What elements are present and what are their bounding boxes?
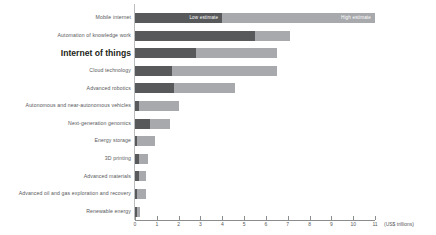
- x-tick-label: 3: [199, 222, 202, 227]
- x-tick: [288, 216, 289, 220]
- x-tick-label: 1: [155, 222, 158, 227]
- x-tick-label: 11: [372, 222, 377, 227]
- x-tick-label: 2: [177, 222, 180, 227]
- bar-segment-low-estimate: Low estimate: [135, 13, 222, 23]
- category-label: Autonomous and near-autonomous vehicles: [26, 103, 131, 108]
- bar-segment-low-estimate: [135, 101, 139, 111]
- bar-segment-high-estimate: [172, 66, 277, 76]
- x-tick-label: 6: [265, 222, 268, 227]
- x-tick: [200, 216, 201, 220]
- category-label: Mobile internet: [95, 15, 131, 20]
- bar-segment-low-estimate: [135, 119, 150, 129]
- x-tick-label: 8: [308, 222, 311, 227]
- bar-segment-low-estimate: [135, 207, 137, 217]
- bar-segment-high-estimate: [139, 101, 178, 111]
- bar-row: [135, 207, 140, 217]
- category-label: Automation of knowledge work: [58, 33, 131, 38]
- x-tick-label: 0: [134, 222, 137, 227]
- bar-segment-low-estimate: [135, 66, 172, 76]
- category-label: Energy storage: [94, 138, 131, 143]
- bar-segment-high-estimate: [196, 48, 277, 58]
- bar-chart: 01234567891011 (US$ trillions) Mobile in…: [0, 0, 436, 235]
- bar-row: [135, 154, 148, 164]
- bar-segment-high-estimate: High estimate: [222, 13, 375, 23]
- x-tick: [375, 216, 376, 220]
- bar-segment-high-estimate: [139, 171, 146, 181]
- x-tick: [135, 216, 136, 220]
- bar-row: [135, 189, 146, 199]
- category-label: Advanced robotics: [87, 86, 131, 91]
- category-label: Advanced materials: [84, 174, 131, 179]
- x-tick: [353, 216, 354, 220]
- category-label: 3D printing: [105, 156, 131, 161]
- category-label: Cloud technology: [89, 68, 131, 73]
- x-tick-label: 4: [221, 222, 224, 227]
- bar-segment-low-estimate: [135, 189, 137, 199]
- bar-segment-high-estimate: [137, 189, 146, 199]
- bar-segment-low-estimate: [135, 136, 137, 146]
- x-axis-unit-label: (US$ trillions): [384, 222, 414, 227]
- x-tick: [331, 216, 332, 220]
- legend-label-low-estimate: Low estimate: [189, 16, 218, 21]
- bar-row: [135, 101, 179, 111]
- category-label: Internet of things: [61, 49, 131, 58]
- bar-segment-high-estimate: [137, 207, 140, 217]
- bar-row: [135, 136, 155, 146]
- x-tick: [179, 216, 180, 220]
- bar-row: [135, 31, 290, 41]
- bar-row: [135, 119, 170, 129]
- category-label: Next-generation genomics: [68, 121, 131, 126]
- x-tick: [266, 216, 267, 220]
- x-axis-line: [135, 220, 375, 221]
- bar-segment-low-estimate: [135, 171, 139, 181]
- bar-segment-low-estimate: [135, 83, 174, 93]
- x-tick: [222, 216, 223, 220]
- x-tick-label: 9: [330, 222, 333, 227]
- bar-row: High estimateLow estimate: [135, 13, 375, 23]
- bar-row: [135, 171, 146, 181]
- bar-segment-high-estimate: [174, 83, 235, 93]
- x-tick: [244, 216, 245, 220]
- bar-segment-low-estimate: [135, 154, 139, 164]
- bar-segment-high-estimate: [150, 119, 170, 129]
- legend-label-high-estimate: High estimate: [341, 16, 371, 21]
- x-tick: [157, 216, 158, 220]
- bar-row: [135, 66, 277, 76]
- category-label: Advanced oil and gas exploration and rec…: [19, 191, 131, 196]
- x-tick-label: 7: [286, 222, 289, 227]
- bar-segment-low-estimate: [135, 31, 255, 41]
- x-tick-label: 5: [243, 222, 246, 227]
- x-tick-label: 10: [350, 222, 356, 227]
- bar-segment-high-estimate: [255, 31, 290, 41]
- bar-segment-low-estimate: [135, 48, 196, 58]
- bar-segment-high-estimate: [139, 154, 148, 164]
- category-label: Renewable energy: [86, 209, 131, 214]
- bar-row: [135, 48, 277, 58]
- x-tick: [310, 216, 311, 220]
- bar-row: [135, 83, 235, 93]
- bar-segment-high-estimate: [137, 136, 154, 146]
